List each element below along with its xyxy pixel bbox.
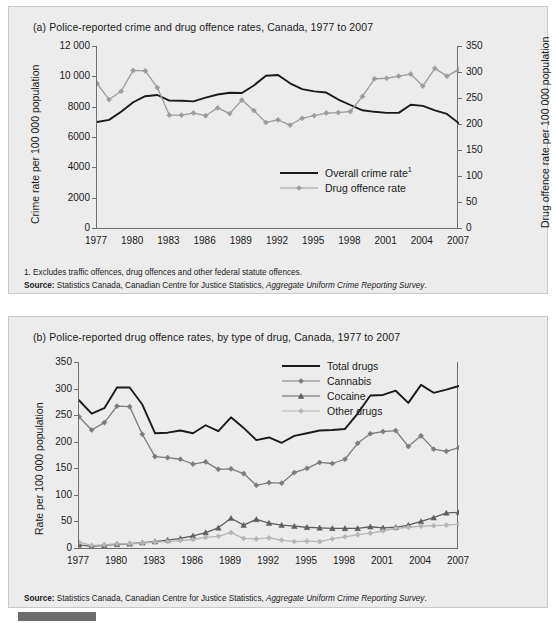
chart-b-y-tick-mark (74, 468, 79, 469)
chart-b-x-tick: 1983 (137, 556, 171, 566)
chart-b-x-axis-line (78, 548, 458, 549)
chart-b-x-tick: 2004 (403, 556, 437, 566)
chart-b-source: Source: Statistics Canada, Canadian Cent… (24, 594, 427, 603)
chart-b-x-tick: 2001 (365, 556, 399, 566)
chart-a-x-tick: 1995 (296, 236, 330, 246)
chart-a-x-tick: 2001 (369, 236, 403, 246)
chart-a-legend-label: Drug offence rate (325, 182, 406, 194)
chart-b-legend-item: Total drugs (282, 358, 382, 373)
chart-b-source-text: Statistics Canada, Canadian Centre for J… (54, 594, 266, 603)
chart-a-x-tick: 1986 (188, 236, 222, 246)
chart-a-y-axis-title: Crime rate per 100 000 population (30, 65, 41, 224)
chart-a-y-tick-mark (92, 46, 97, 47)
chart-a-y-tick-mark (92, 107, 97, 108)
chart-b-legend-item: Cocaine (282, 388, 382, 403)
chart-a-legend-footnote-ref: 1 (408, 166, 412, 174)
chart-b-x-tick: 1995 (289, 556, 323, 566)
chart-a-y2-tick: 100 (466, 171, 483, 181)
chart-a-y-tick: 0 (44, 223, 90, 233)
chart-a-y2-tick: 50 (466, 197, 477, 207)
chart-a-y2-tick-mark (457, 150, 462, 151)
page-bottom-marker (18, 612, 96, 621)
chart-b-legend-marker (296, 376, 306, 386)
chart-a-y2-tick: 300 (466, 67, 483, 77)
chart-a-legend-swatch (280, 167, 318, 179)
chart-b-series-svg (79, 362, 459, 548)
chart-b-y-tick: 100 (36, 490, 72, 500)
chart-b-legend-swatch (282, 390, 320, 402)
chart-b-y-tick-mark (74, 389, 79, 390)
chart-b-legend-label: Total drugs (327, 360, 378, 372)
chart-b-legend-item: Other drugs (282, 403, 382, 418)
chart-a-legend-item: Overall crime rate1 (280, 165, 412, 180)
chart-a-y-tick-mark (92, 198, 97, 199)
chart-b-y-tick: 250 (36, 410, 72, 420)
figure-page: (a) Police-reported crime and drug offen… (0, 0, 556, 623)
chart-b-y-tick: 300 (36, 384, 72, 394)
chart-a-x-tick: 1992 (260, 236, 294, 246)
chart-a-y-tick: 12 000 (44, 41, 90, 51)
chart-a-y2-tick: 200 (466, 119, 483, 129)
chart-a-source-end: . (424, 281, 426, 290)
chart-a-y2-tick: 0 (466, 223, 472, 233)
chart-a-y2-tick-mark (457, 98, 462, 99)
chart-b-y-tick: 350 (36, 357, 72, 367)
chart-a-y2-tick: 150 (466, 145, 483, 155)
chart-a-x-axis-line (96, 228, 458, 229)
chart-b-y-tick-mark (74, 415, 79, 416)
chart-a-y2-tick-mark (457, 202, 462, 203)
chart-a-y2-tick-mark (457, 176, 462, 177)
chart-a-x-tick: 2004 (405, 236, 439, 246)
chart-a-x-tick: 1977 (79, 236, 113, 246)
chart-a-y2-tick-mark (457, 228, 462, 229)
chart-b-y-tick-mark (74, 521, 79, 522)
chart-b-legend-label: Cannabis (327, 375, 371, 387)
chart-a-legend-label: Overall crime rate1 (325, 166, 412, 179)
chart-b-y-tick: 50 (36, 516, 72, 526)
chart-a-y2-axis-title: Drug offence rate per 100 000 population (540, 37, 551, 228)
chart-a-x-tick: 1998 (332, 236, 366, 246)
chart-b-y-tick-mark (74, 442, 79, 443)
chart-a-y2-tick-mark (457, 72, 462, 73)
chart-b-legend-swatch (282, 405, 320, 417)
chart-b-legend-label: Other drugs (327, 405, 382, 417)
chart-b-legend-marker (296, 391, 306, 401)
chart-a-y-tick: 8000 (44, 102, 90, 112)
chart-b-legend-item: Cannabis (282, 373, 382, 388)
chart-a-y-tick-mark (92, 228, 97, 229)
chart-a-source-label: Source: (24, 281, 54, 290)
chart-b-legend-marker (296, 406, 306, 416)
chart-b-y-tick-mark (74, 548, 79, 549)
chart-b-legend-swatch (282, 375, 320, 387)
chart-a-title: (a) Police-reported crime and drug offen… (33, 21, 373, 33)
chart-b-source-italic: Aggregate Uniform Crime Reporting Survey (266, 594, 424, 603)
chart-a-y2-tick: 350 (466, 41, 483, 51)
chart-a-legend-item: Drug offence rate (280, 180, 412, 195)
chart-a-y2-tick: 250 (466, 93, 483, 103)
chart-b-x-tick: 1992 (251, 556, 285, 566)
chart-b-y-tick: 0 (36, 543, 72, 553)
chart-a-footnote: 1. Excludes traffic offences, drug offen… (24, 268, 302, 277)
chart-b-legend-label: Cocaine (327, 390, 366, 402)
chart-a-y-tick: 6000 (44, 132, 90, 142)
chart-a-source-text: Statistics Canada, Canadian Centre for J… (54, 281, 266, 290)
chart-b-x-tick: 1998 (327, 556, 361, 566)
chart-b-y-tick-mark (74, 495, 79, 496)
chart-b-x-tick: 2007 (441, 556, 475, 566)
chart-a-x-tick: 1989 (224, 236, 258, 246)
chart-b-y-tick: 200 (36, 437, 72, 447)
chart-a-y-tick-mark (92, 167, 97, 168)
chart-a-y-tick-mark (92, 76, 97, 77)
chart-a-legend-marker (294, 183, 304, 193)
chart-a-legend-swatch (280, 182, 318, 194)
chart-a-x-tick: 1983 (151, 236, 185, 246)
chart-a-x-tick: 2007 (441, 236, 475, 246)
chart-b-x-tick: 1977 (61, 556, 95, 566)
chart-b-x-tick: 1989 (213, 556, 247, 566)
chart-a-plot-area (96, 46, 458, 228)
chart-a-y-tick: 10 000 (44, 71, 90, 81)
chart-a-legend: Overall crime rate1Drug offence rate (280, 165, 412, 195)
chart-a-source: Source: Statistics Canada, Canadian Cent… (24, 281, 427, 290)
chart-b-x-tick: 1980 (99, 556, 133, 566)
chart-a-y-tick: 4000 (44, 162, 90, 172)
